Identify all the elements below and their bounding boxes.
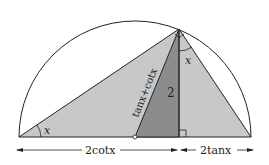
arrowhead-mid-right: [180, 148, 187, 152]
base-left-label: 2cotx: [85, 144, 116, 157]
center-point: [133, 135, 137, 139]
arrowhead-mid-left: [171, 148, 178, 152]
arrowhead-right: [247, 148, 254, 152]
geometry-diagram: x x tanx+cotx 2 2cotx 2tanx: [0, 0, 269, 165]
base-right-label: 2tanx: [200, 144, 232, 157]
height-label: 2: [167, 86, 175, 100]
angle-top-label: x: [185, 54, 192, 67]
right-triangle: [19, 29, 251, 137]
angle-left-label: x: [44, 124, 51, 137]
arrowhead-left: [16, 148, 23, 152]
